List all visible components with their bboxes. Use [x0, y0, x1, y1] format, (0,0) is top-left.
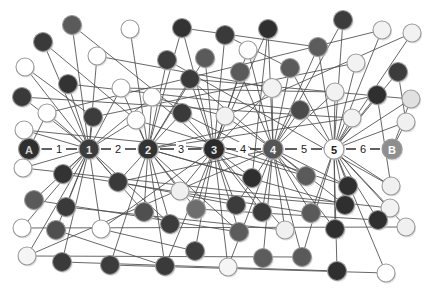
node-circle[interactable] — [397, 113, 415, 131]
scatter-node[interactable] — [181, 70, 201, 91]
scatter-node[interactable] — [92, 220, 111, 240]
scatter-node[interactable] — [243, 169, 263, 190]
hub-node-h5[interactable]: 5 — [324, 139, 345, 161]
scatter-node[interactable] — [13, 219, 32, 239]
node-circle[interactable] — [259, 20, 278, 39]
node-circle[interactable] — [253, 203, 272, 222]
scatter-node[interactable] — [259, 20, 279, 41]
node-circle[interactable] — [231, 63, 250, 82]
node-circle[interactable] — [254, 249, 273, 268]
scatter-node[interactable] — [347, 54, 366, 74]
node-circle[interactable] — [339, 177, 358, 196]
node-circle[interactable] — [15, 121, 33, 139]
scatter-node[interactable] — [263, 79, 283, 100]
node-circle[interactable] — [54, 165, 73, 184]
node-circle[interactable] — [171, 182, 189, 200]
scatter-node[interactable] — [34, 33, 54, 54]
node-circle[interactable] — [127, 111, 145, 129]
node-circle[interactable] — [336, 196, 355, 215]
node-circle[interactable] — [230, 223, 249, 242]
scatter-node[interactable] — [16, 58, 35, 78]
node-circle[interactable] — [101, 256, 120, 275]
node-circle[interactable] — [112, 79, 130, 97]
node-circle[interactable] — [38, 104, 56, 122]
hub-node-h2[interactable]: 2 — [138, 139, 159, 161]
scatter-node[interactable] — [343, 109, 362, 129]
scatter-node[interactable] — [63, 16, 83, 37]
node-circle[interactable] — [109, 173, 128, 192]
scatter-node[interactable] — [84, 108, 104, 129]
node-circle[interactable] — [47, 221, 66, 240]
node-circle[interactable] — [309, 38, 328, 57]
node-circle[interactable] — [389, 63, 408, 82]
scatter-node[interactable] — [54, 165, 74, 186]
scatter-node[interactable] — [18, 247, 37, 267]
scatter-node[interactable] — [216, 107, 235, 127]
scatter-node[interactable] — [369, 211, 389, 232]
scatter-node[interactable] — [25, 191, 45, 212]
node-circle[interactable] — [13, 219, 31, 237]
scatter-node[interactable] — [239, 41, 258, 61]
node-circle[interactable] — [135, 203, 154, 222]
scatter-node[interactable] — [326, 83, 345, 103]
scatter-node[interactable] — [135, 203, 155, 224]
node-circle[interactable] — [402, 90, 420, 108]
scatter-node[interactable] — [53, 253, 73, 274]
node-circle[interactable] — [377, 264, 395, 282]
node-circle[interactable] — [216, 107, 234, 125]
node-circle[interactable] — [368, 86, 387, 105]
node-circle[interactable] — [14, 159, 32, 177]
node-circle[interactable] — [403, 24, 421, 42]
node-circle[interactable] — [63, 16, 82, 35]
node-circle[interactable] — [57, 198, 76, 217]
node-circle[interactable] — [382, 177, 400, 195]
scatter-node[interactable] — [334, 11, 354, 32]
node-circle[interactable] — [276, 221, 294, 239]
scatter-node[interactable] — [253, 203, 273, 224]
node-circle[interactable] — [302, 204, 321, 223]
scatter-node[interactable] — [57, 198, 77, 219]
scatter-node[interactable] — [196, 49, 216, 70]
scatter-node[interactable] — [336, 196, 356, 217]
node-circle[interactable] — [173, 19, 192, 38]
scatter-node[interactable] — [173, 104, 193, 125]
scatter-node[interactable] — [219, 258, 238, 278]
node-circle[interactable] — [156, 257, 175, 276]
scatter-node[interactable] — [47, 221, 67, 242]
scatter-node[interactable] — [186, 242, 206, 263]
node-circle[interactable] — [53, 253, 72, 272]
scatter-node[interactable] — [297, 167, 317, 188]
scatter-node[interactable] — [231, 63, 251, 84]
node-circle[interactable] — [59, 75, 78, 94]
node-circle[interactable] — [84, 108, 103, 127]
scatter-node[interactable] — [112, 79, 131, 99]
node-circle[interactable] — [281, 59, 300, 78]
node-circle[interactable] — [347, 54, 365, 72]
scatter-node[interactable] — [397, 113, 416, 133]
scatter-node[interactable] — [373, 21, 392, 41]
scatter-node[interactable] — [377, 264, 396, 284]
node-circle[interactable] — [187, 200, 206, 219]
node-circle[interactable] — [181, 70, 200, 89]
hub-node-B[interactable]: B — [382, 139, 403, 161]
node-circle[interactable] — [227, 196, 246, 215]
scatter-node[interactable] — [276, 221, 295, 241]
scatter-node[interactable] — [109, 173, 129, 194]
scatter-node[interactable] — [339, 177, 359, 198]
scatter-node[interactable] — [15, 121, 34, 141]
node-circle[interactable] — [369, 211, 388, 230]
node-circle[interactable] — [373, 21, 391, 39]
node-circle[interactable] — [293, 248, 312, 267]
node-circle[interactable] — [291, 101, 310, 120]
scatter-node[interactable] — [382, 177, 401, 197]
scatter-node[interactable] — [161, 215, 181, 236]
scatter-node[interactable] — [88, 47, 107, 67]
scatter-node[interactable] — [101, 256, 121, 277]
scatter-node[interactable] — [156, 257, 176, 278]
scatter-node[interactable] — [171, 182, 190, 202]
scatter-node[interactable] — [121, 20, 140, 40]
node-circle[interactable] — [143, 88, 161, 106]
node-circle[interactable] — [18, 247, 36, 265]
node-circle[interactable] — [326, 83, 344, 101]
node-circle[interactable] — [343, 109, 361, 127]
